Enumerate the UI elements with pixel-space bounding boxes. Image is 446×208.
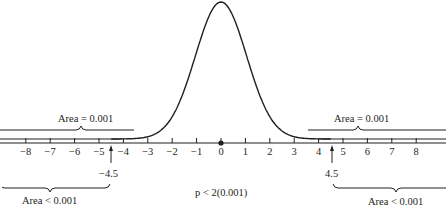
- x-tick-label: −4: [118, 146, 130, 157]
- marker-right-arrow: [330, 145, 334, 163]
- center-point: [218, 140, 223, 145]
- area-label-upper-left: Area = 0.001: [58, 113, 113, 124]
- x-tick-label: 0: [218, 146, 223, 157]
- x-tick-label: −6: [69, 146, 80, 157]
- x-tick-label: 4: [316, 146, 322, 157]
- x-tick-label: −7: [45, 146, 56, 157]
- area-label-lower-right: Area < 0.001: [368, 196, 423, 207]
- upper-right-brace: [308, 126, 446, 130]
- p-value-label: p < 2(0.001): [195, 187, 248, 199]
- marker-right-label: 4.5: [325, 168, 338, 179]
- lower-right-brace: [333, 184, 446, 192]
- marker-left-arrow: [109, 145, 113, 163]
- x-tick-label: 6: [365, 146, 370, 157]
- x-tick-label: −3: [142, 146, 153, 157]
- x-tick-label: −1: [191, 146, 202, 157]
- lower-left-brace: [2, 184, 110, 192]
- marker-left-label: −4.5: [99, 168, 118, 179]
- x-tick-label: 8: [414, 146, 419, 157]
- x-tick-label: −5: [93, 146, 104, 157]
- x-tick-label: 3: [292, 146, 297, 157]
- area-label-lower-left: Area < 0.001: [22, 195, 77, 206]
- x-tick-label: −2: [167, 146, 178, 157]
- x-tick-label: 5: [340, 146, 345, 157]
- x-axis: −8−7−6−5−4−3−2−1012345678: [0, 138, 446, 157]
- area-label-upper-right: Area = 0.001: [334, 113, 389, 124]
- upper-left-brace: [0, 126, 134, 130]
- normal-curve: [111, 2, 331, 139]
- x-tick-label: 1: [243, 146, 248, 157]
- normal-distribution-chart: −8−7−6−5−4−3−2−1012345678 Area = 0.001 A…: [0, 0, 446, 208]
- x-tick-label: −8: [20, 146, 31, 157]
- x-tick-label: 7: [389, 146, 394, 157]
- x-tick-label: 2: [267, 146, 272, 157]
